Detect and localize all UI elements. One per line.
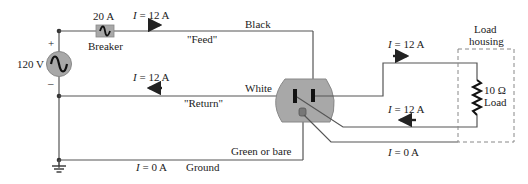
load-neutral-current-label: I = 12 A <box>387 103 425 115</box>
ground-hole-icon <box>299 108 306 116</box>
feed-wire-color-label: Black <box>245 18 271 30</box>
feed-current-label: I = 12 A <box>132 9 170 21</box>
hot-slot-icon <box>311 89 315 102</box>
feed-name-label: "Feed" <box>187 33 217 45</box>
earth-ground-icon <box>52 160 66 172</box>
breaker-label: Breaker <box>88 40 123 52</box>
ground-wire-color-label: Green or bare <box>231 145 292 157</box>
return-wire-color-label: White <box>245 82 272 94</box>
load-hot-current-label: I = 12 A <box>387 38 425 50</box>
circuit-diagram: + – 120 V 20 A Breaker I = 12 A Black "F… <box>0 0 528 184</box>
return-name-label: "Return" <box>184 97 223 109</box>
ground-label: Ground <box>186 161 220 173</box>
load-name-label: Load <box>484 96 507 108</box>
return-current-label: I = 12 A <box>132 71 170 83</box>
source-minus-label: – <box>47 77 54 89</box>
load-housing-label-line1: Load <box>474 23 497 35</box>
load-housing-label-line2: housing <box>469 35 504 47</box>
source-voltage-label: 120 V <box>17 58 44 70</box>
ground-current-label: I = 0 A <box>135 161 167 173</box>
load-ground-current-label: I = 0 A <box>387 146 419 158</box>
resistor-icon <box>473 80 481 115</box>
load-resistance-label: 10 Ω <box>484 84 506 96</box>
neutral-slot-icon <box>293 89 297 103</box>
breaker-rating-label: 20 A <box>93 10 114 22</box>
breaker <box>96 25 114 37</box>
load-hot-wire <box>315 63 477 96</box>
ac-source <box>47 52 72 77</box>
source-plus-label: + <box>48 37 54 49</box>
